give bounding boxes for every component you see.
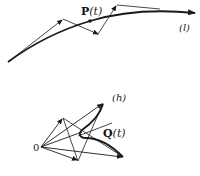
segment-2 — [63, 19, 98, 34]
segment-1 — [8, 20, 62, 62]
vector-b — [41, 104, 102, 147]
curve-l — [8, 11, 195, 62]
point-q-label: Q(t) — [103, 127, 126, 140]
chord-a-c — [63, 118, 78, 161]
point-p-label: P(t) — [81, 5, 102, 18]
top-diagram: P(t) (l) — [8, 5, 195, 62]
bottom-diagram: 0 Q(t) (h) — [33, 92, 126, 161]
figure-canvas: P(t) (l) 0 Q(t) (h) — [0, 0, 200, 176]
curve-l-label: (l) — [179, 22, 190, 33]
segment-4 — [117, 5, 160, 9]
curve-h-label: (h) — [112, 92, 126, 103]
origin-label: 0 — [33, 142, 39, 153]
point-p — [88, 19, 92, 23]
